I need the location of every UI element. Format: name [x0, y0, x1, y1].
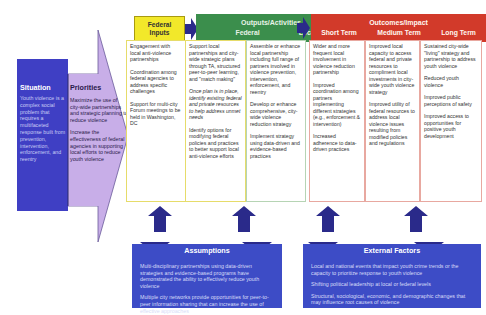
header-sub-medium-term: Medium Term — [377, 29, 421, 37]
header-sub-federal: Federal — [236, 29, 260, 37]
outcomes-short-term-column: Wider and more frequent local involvemen… — [309, 40, 365, 202]
list-item: Increased adherence to data-driven pract… — [313, 133, 361, 153]
outcomes-medium-term-column: Improved local capacity to access federa… — [365, 40, 420, 202]
priority-item: Increase the effectiveness of federal ag… — [70, 129, 128, 162]
outputs-federal-column: Support local partnerships and city-wide… — [186, 40, 246, 202]
list-item: Multi-disciplinary partnerships using da… — [140, 263, 276, 289]
list-item: Support for multi-city Forum meetings to… — [130, 101, 182, 127]
outcomes-impact-header: Outcomes/Impact Short Term Medium Term L… — [311, 14, 486, 42]
list-item: Shifting political leadership at local o… — [311, 281, 475, 288]
list-item: Local and national events that impact yo… — [311, 263, 475, 276]
header-label: Inputs — [150, 29, 170, 37]
header-title: Outcomes/Impact — [369, 19, 428, 27]
list-item: Multiple city networks provide opportuni… — [140, 294, 276, 314]
list-item: Improved access to opportunities for pos… — [424, 113, 478, 139]
header-sub-long-term: Long Term — [441, 29, 476, 37]
external-factors-title: External Factors — [303, 248, 481, 255]
list-item: Engagement with local anti-violence part… — [130, 43, 182, 63]
inputs-column: Engagement with local anti-violence part… — [126, 40, 186, 202]
list-item: Sustained city-wide "living" strategy an… — [424, 43, 478, 69]
list-item: Structural, sociological, economic, and … — [311, 293, 475, 306]
external-factors-box: External Factors Local and national even… — [303, 244, 481, 308]
situation-title: Situation — [20, 83, 51, 92]
right-arrow-icon — [297, 17, 311, 39]
assumptions-box: Assumptions Multi-disciplinary partnersh… — [132, 244, 282, 308]
list-item: Implement strategy using data-driven and… — [250, 133, 302, 159]
federal-inputs-header: Federal Inputs — [134, 16, 185, 42]
list-item: Improved utility of federal resources to… — [369, 101, 416, 147]
priorities-list: Maximize the use of city-wide partnershi… — [70, 97, 128, 168]
list-item: Improved local capacity to access federa… — [369, 43, 416, 95]
list-item: Develop or enhance comprehensive, city-w… — [250, 101, 302, 127]
list-item: Reduced youth violence — [424, 75, 478, 88]
priority-item: Maximize the use of city-wide partnershi… — [70, 97, 128, 123]
list-item: Wider and more frequent local involvemen… — [313, 43, 361, 76]
list-item: Improved public perceptions of safety — [424, 94, 478, 107]
list-item: Assemble or enhance local partnership in… — [250, 43, 302, 95]
outcomes-long-term-column: Sustained city-wide "living" strategy an… — [420, 40, 482, 202]
priorities-title: Priorities — [70, 83, 101, 92]
assumptions-title: Assumptions — [132, 248, 282, 255]
outputs-local-column: Assemble or enhance local partnership in… — [246, 40, 306, 202]
list-item: Once plan is in place, identify existing… — [189, 88, 242, 121]
list-item: Coordination among federal agencies to a… — [130, 69, 182, 95]
header-sub-short-term: Short Term — [321, 29, 357, 37]
header-title: Outputs/Activities — [241, 19, 301, 27]
list-item: Identify options for modifying federal p… — [189, 127, 242, 160]
situation-text: Youth violence is a complex social probl… — [20, 95, 68, 163]
list-item: Support local partnerships and city-wide… — [189, 43, 242, 82]
list-item: Improved coordination among partners imp… — [313, 82, 361, 128]
header-label: Federal — [148, 21, 171, 29]
